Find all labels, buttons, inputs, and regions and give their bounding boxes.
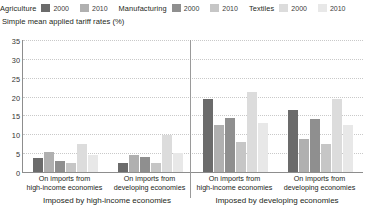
legend-item[interactable]: 2010 xyxy=(80,4,115,12)
y-axis-tick-label: 10 xyxy=(4,131,20,140)
bar[interactable] xyxy=(55,161,65,172)
bar-group xyxy=(23,40,108,172)
bar[interactable] xyxy=(162,135,172,172)
y-axis-tick-label: 30 xyxy=(4,55,20,64)
bar[interactable] xyxy=(343,125,353,172)
bar[interactable] xyxy=(77,144,87,172)
y-axis-tick-label: 15 xyxy=(4,112,20,121)
bar[interactable] xyxy=(288,110,298,172)
legend-year-label: 2010 xyxy=(92,5,108,12)
bar[interactable] xyxy=(321,144,331,172)
legend-category-label: Textiles xyxy=(249,4,274,13)
x-axis-group-label: Imposed by developing economies xyxy=(192,196,362,210)
gridline: 0 xyxy=(23,172,363,173)
legend-item[interactable]: 2000 xyxy=(279,4,314,12)
legend-item[interactable]: 2000 xyxy=(41,4,76,12)
y-axis-tick-label: 0 xyxy=(4,169,20,178)
legend-swatch-icon xyxy=(172,4,181,12)
plot-area: 05101520253035 xyxy=(22,40,363,173)
legend-year-label: 2000 xyxy=(53,5,69,12)
x-axis-group-label: Imposed by high-income economies xyxy=(22,196,192,210)
chart-subtitle: Simple mean applied tariff rates (%) xyxy=(2,17,124,26)
legend-year-label: 2000 xyxy=(291,5,307,12)
x-axis-label-line2: high-income economies xyxy=(192,184,277,193)
x-axis-label-line2: developing economies xyxy=(277,184,362,193)
x-axis-category-labels: On imports fromhigh-income economiesOn i… xyxy=(22,175,362,195)
legend-year-label: 2010 xyxy=(222,5,238,12)
bar-group xyxy=(108,40,193,172)
legend-item[interactable]: 2010 xyxy=(210,4,245,12)
legend-item[interactable]: 2010 xyxy=(318,4,353,12)
bar[interactable] xyxy=(44,152,54,172)
bar[interactable] xyxy=(173,153,183,172)
y-axis-tick-label: 25 xyxy=(4,74,20,83)
x-axis-group-labels: Imposed by high-income economiesImposed … xyxy=(22,196,362,210)
bar[interactable] xyxy=(225,118,235,172)
bar[interactable] xyxy=(88,155,98,172)
bar[interactable] xyxy=(332,99,342,172)
y-axis-tick-label: 5 xyxy=(4,150,20,159)
bar[interactable] xyxy=(33,158,43,172)
bar[interactable] xyxy=(214,125,224,172)
bar[interactable] xyxy=(310,119,320,172)
legend-group-textiles: Textiles20002010 xyxy=(249,4,357,13)
x-axis-label-line2: developing economies xyxy=(107,184,192,193)
chart-legend: Agriculture20002010Manufacturing20002010… xyxy=(0,1,366,15)
legend-swatch-icon xyxy=(80,4,89,12)
bar[interactable] xyxy=(203,99,213,172)
bar[interactable] xyxy=(247,92,257,172)
bar-groups xyxy=(23,40,363,172)
bar[interactable] xyxy=(299,139,309,172)
bar-group xyxy=(193,40,278,172)
x-axis-label-line2: high-income economies xyxy=(22,184,107,193)
y-axis-tick-label: 20 xyxy=(4,93,20,102)
bar[interactable] xyxy=(66,163,76,172)
legend-group-manufacturing: Manufacturing20002010 xyxy=(119,4,249,13)
legend-swatch-icon xyxy=(318,4,327,12)
x-axis-label: On imports fromdeveloping economies xyxy=(277,175,362,195)
x-axis-label: On imports fromhigh-income economies xyxy=(192,175,277,195)
bar[interactable] xyxy=(151,163,161,172)
x-axis-label: On imports fromdeveloping economies xyxy=(107,175,192,195)
legend-group-agriculture: Agriculture20002010 xyxy=(0,4,119,13)
bar[interactable] xyxy=(129,155,139,172)
bar[interactable] xyxy=(118,163,128,172)
legend-category-label: Manufacturing xyxy=(119,4,167,13)
legend-item[interactable]: 2000 xyxy=(172,4,207,12)
legend-swatch-icon xyxy=(279,4,288,12)
y-axis-tick-label: 35 xyxy=(4,37,20,46)
bar[interactable] xyxy=(258,123,268,172)
legend-swatch-icon xyxy=(41,4,50,12)
bar[interactable] xyxy=(236,142,246,172)
legend-year-label: 2010 xyxy=(330,5,346,12)
legend-year-label: 2000 xyxy=(184,5,200,12)
x-axis-label: On imports fromhigh-income economies xyxy=(22,175,107,195)
bar-group xyxy=(278,40,363,172)
legend-swatch-icon xyxy=(210,4,219,12)
bar[interactable] xyxy=(140,157,150,172)
legend-category-label: Agriculture xyxy=(0,4,36,13)
